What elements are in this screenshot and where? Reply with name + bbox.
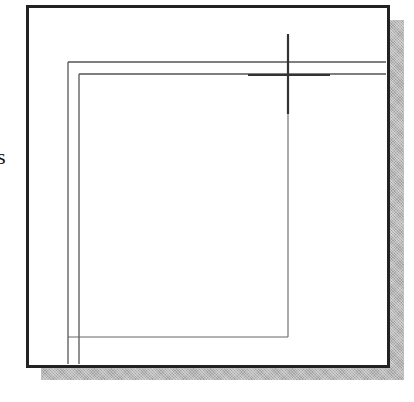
crosshair-cursor	[248, 34, 330, 114]
drawing-canvas	[0, 0, 414, 402]
